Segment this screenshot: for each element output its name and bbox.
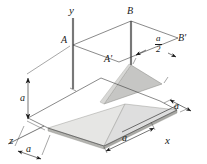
half-a-denominator: 2 — [155, 45, 162, 54]
half-a-numerator: a — [155, 34, 162, 43]
dim-half-a-label: a 2 — [155, 34, 162, 54]
y-axis-label: y — [69, 5, 74, 16]
x-axis-label: x — [165, 135, 170, 146]
point-A-prime-label: A' — [104, 54, 112, 64]
point-B-label: B — [127, 6, 133, 16]
construction-lines — [73, 21, 178, 62]
z-axis-label: z — [9, 135, 13, 146]
diagram-canvas — [0, 0, 207, 164]
z-axis-line — [8, 126, 44, 144]
dim-depth-a-label: a — [26, 144, 31, 154]
dim-side-a-label: a — [174, 101, 179, 111]
point-A-label: A — [61, 35, 67, 45]
dim-width-a-label: a — [122, 133, 127, 143]
dim-height-a-label: a — [20, 93, 25, 103]
figure-container: y x z A A' B B' a a a a a 2 — [0, 0, 207, 164]
dim-height-a-line — [27, 46, 70, 130]
point-B-prime-label: B' — [178, 33, 186, 43]
dim-depth-a-line — [15, 126, 50, 159]
